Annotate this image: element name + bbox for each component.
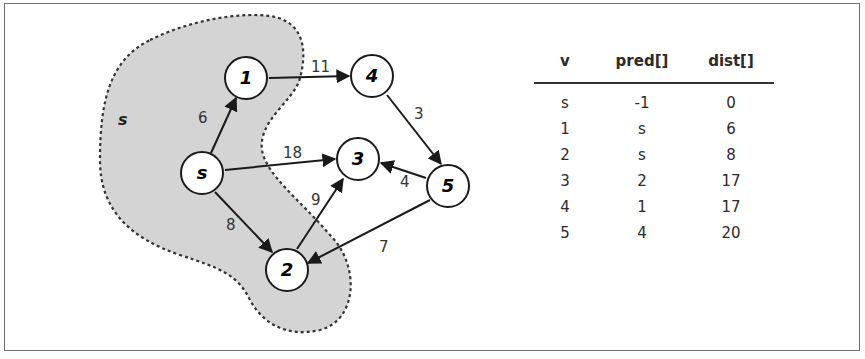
node-5: 5 <box>427 165 469 207</box>
weight-2-3: 9 <box>311 191 321 209</box>
cell-pred: s <box>596 142 688 168</box>
cell-dist: 17 <box>688 168 774 194</box>
cell-pred: -1 <box>596 90 688 116</box>
node-4: 4 <box>351 55 393 97</box>
weight-5-3: 4 <box>400 173 410 191</box>
header-dist: dist[] <box>688 52 774 83</box>
header-rule <box>534 83 774 90</box>
table-row: 3 2 17 <box>534 168 774 194</box>
cell-pred: 4 <box>596 220 688 246</box>
node-label-4: 4 <box>365 65 379 86</box>
node-label-3: 3 <box>352 148 365 169</box>
table-row: 2 s 8 <box>534 142 774 168</box>
table-header-row: v pred[] dist[] <box>534 52 774 83</box>
cell-dist: 8 <box>688 142 774 168</box>
header-v: v <box>534 52 596 83</box>
node-label-5: 5 <box>442 175 455 196</box>
cell-v: 2 <box>534 142 596 168</box>
cell-v: 5 <box>534 220 596 246</box>
cell-dist: 17 <box>688 194 774 220</box>
node-label-2: 2 <box>281 259 294 280</box>
weight-s-1: 6 <box>198 109 208 127</box>
node-label-1: 1 <box>240 67 253 88</box>
table-row: s -1 0 <box>534 90 774 116</box>
node-s: s <box>181 152 223 194</box>
cell-pred: 2 <box>596 168 688 194</box>
cell-v: 1 <box>534 116 596 142</box>
weight-s-2: 8 <box>226 216 236 234</box>
region-label-s: s <box>118 110 128 129</box>
table-row: 5 4 20 <box>534 220 774 246</box>
table-row: 4 1 17 <box>534 194 774 220</box>
node-3: 3 <box>337 138 379 180</box>
cell-pred: s <box>596 116 688 142</box>
node-2: 2 <box>266 249 308 291</box>
weight-5-2: 7 <box>379 238 389 256</box>
weight-s-3: 18 <box>283 144 302 162</box>
cell-pred: 1 <box>596 194 688 220</box>
weight-1-4: 11 <box>311 58 330 76</box>
cell-v: s <box>534 90 596 116</box>
table-row: 1 s 6 <box>534 116 774 142</box>
cell-v: 4 <box>534 194 596 220</box>
node-label-s: s <box>197 162 208 183</box>
weight-4-5: 3 <box>414 105 424 123</box>
cell-dist: 6 <box>688 116 774 142</box>
pred-dist-table: v pred[] dist[] s -1 0 1 s 6 2 s 8 3 2 1… <box>534 52 774 246</box>
header-pred: pred[] <box>596 52 688 83</box>
cell-dist: 20 <box>688 220 774 246</box>
node-1: 1 <box>225 57 267 99</box>
cell-dist: 0 <box>688 90 774 116</box>
cell-v: 3 <box>534 168 596 194</box>
